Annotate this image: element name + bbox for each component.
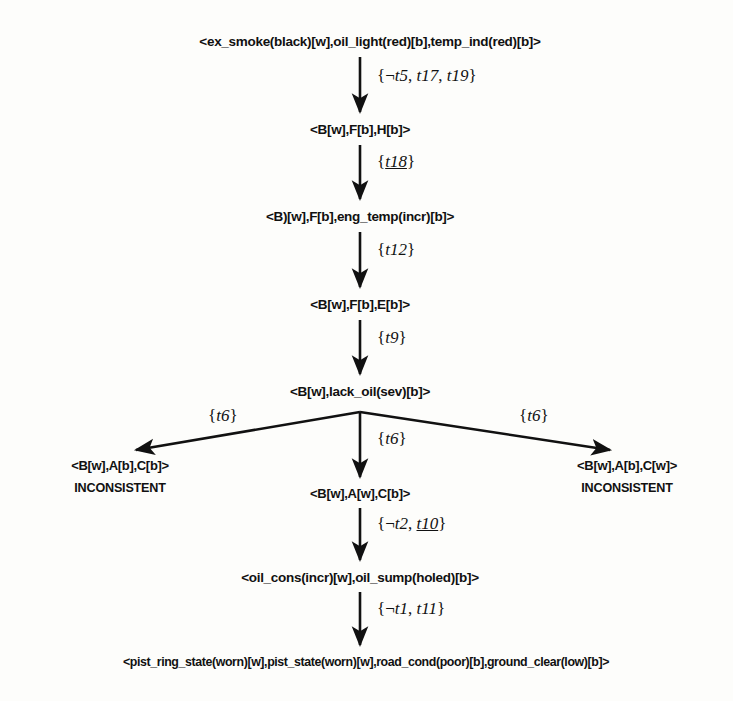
- state-node-n8: <B[w],A[b],C[w]>: [577, 458, 677, 473]
- arrow-n5-n6: [136, 412, 360, 450]
- edge-label-e9: {¬t1, t11}: [377, 599, 445, 619]
- edge-label-e8: {¬t2, t10}: [377, 514, 446, 534]
- arrow-layer: [0, 0, 733, 701]
- diagram-canvas: <ex_smoke(black)[w],oil_light(red)[b],te…: [0, 0, 733, 701]
- state-node-n2: <B[w],F[b],H[b]>: [310, 122, 410, 137]
- edge-label-e7: {t6}: [519, 406, 549, 426]
- edge-label-e5: {t6}: [208, 406, 238, 426]
- state-node-n7: <B[w],A[w],C[b]>: [310, 486, 410, 501]
- state-node-n6: <B[w],A[b],C[b]>: [71, 458, 169, 473]
- edge-label-e3: {t12}: [377, 240, 415, 260]
- state-node-n1: <ex_smoke(black)[w],oil_light(red)[b],te…: [199, 34, 540, 49]
- status-badge-inconsistent-right: INCONSISTENT: [581, 481, 672, 495]
- state-node-n10: <pist_ring_state(worn)[w],pist_state(wor…: [123, 655, 609, 669]
- edge-label-e6: {t6}: [377, 429, 407, 449]
- edge-label-e2: {t18}: [377, 152, 415, 172]
- state-node-n3: <B)[w],F[b],eng_temp(incr)[b]>: [266, 209, 454, 224]
- state-node-n4: <B[w],F[b],E[b]>: [310, 297, 409, 312]
- status-badge-inconsistent-left: INCONSISTENT: [74, 481, 165, 495]
- state-node-n5: <B[w],lack_oil(sev)[b]>: [290, 384, 430, 399]
- edge-label-e1: {¬t5, t17, t19}: [377, 66, 477, 86]
- state-node-n9: <oil_cons(incr)[w],oil_sump(holed)[b]>: [241, 570, 479, 585]
- edge-label-e4: {t9}: [377, 328, 407, 348]
